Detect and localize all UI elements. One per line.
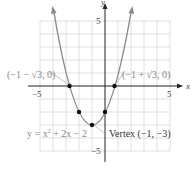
x-tick-neg5: −5	[32, 89, 42, 99]
point-vertex	[90, 123, 94, 127]
y-tick-neg5: −5	[91, 146, 101, 156]
x-axis-label: x	[185, 81, 190, 91]
x-axis-arrow-icon	[177, 84, 183, 89]
root-right-label: (−1 + √3, 0)	[122, 69, 170, 81]
point-root-left	[67, 84, 71, 88]
curve-arrow-right-icon	[129, 6, 135, 14]
point-0-neg2	[103, 110, 107, 114]
parabola-graph: x y −5 5 5 −5 (−1 − √3, 0) (−1 + √3, 0) …	[0, 0, 193, 172]
root-left-label: (−1 − √3, 0)	[7, 69, 55, 81]
point-neg2-neg2	[77, 110, 81, 114]
vertex-label: Vertex (−1, −3)	[109, 128, 171, 140]
vertex-leader	[94, 125, 104, 133]
x-tick-pos5: 5	[167, 89, 172, 99]
y-tick-pos5: 5	[96, 16, 101, 26]
equation-label: y = x2 + 2x − 2	[27, 128, 87, 139]
y-axis-label: y	[100, 0, 105, 7]
parabola-curve	[54, 13, 131, 126]
curve-arrow-left-icon	[51, 6, 57, 14]
point-root-right	[112, 84, 116, 88]
